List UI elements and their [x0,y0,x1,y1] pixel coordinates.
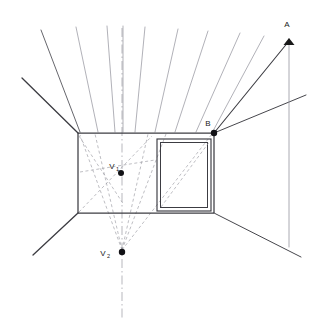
label-v2-group: V 2 [100,249,110,259]
back-wall-rect [78,133,214,213]
ceiling-edge-right [214,95,306,133]
label-v1: V [109,162,115,171]
perspective-diagram: A B V 1 V 2 [0,0,328,325]
label-v2: V [100,249,106,258]
floor-edge-left [33,213,78,255]
construction-diag-wall-bl-tr [79,136,152,212]
ceiling-ray-3 [107,26,115,132]
label-v2-subscript: 2 [107,253,110,259]
window-frame-outer [157,139,211,211]
point-a-arrowhead [284,38,295,45]
ceiling-ray-9 [213,36,264,131]
construction-line-v2-a [95,134,122,250]
ceiling-rays-group [41,26,264,132]
window-frame-group [157,139,211,211]
label-b: B [205,119,210,128]
label-a: A [284,20,290,29]
point-b-dot [211,130,217,136]
window-frame-diagonal [161,141,210,207]
ceiling-ray-6 [155,29,178,132]
room-edges-group [22,78,306,257]
point-v2-dot [119,249,125,255]
ceiling-ray-2 [76,27,98,132]
construction-line-v2-far [122,134,212,250]
construction-lines-group [79,134,212,250]
floor-edge-right [214,213,301,257]
ray-b-to-a [214,41,289,133]
label-v1-group: V 1 [109,162,119,172]
ceiling-ray-5 [135,27,145,132]
arrowhead-icon [284,38,295,45]
perspective-construction-svg: A B V 1 V 2 [0,0,328,325]
ray-ab-group [214,39,289,247]
label-v1-subscript: 1 [116,166,119,172]
